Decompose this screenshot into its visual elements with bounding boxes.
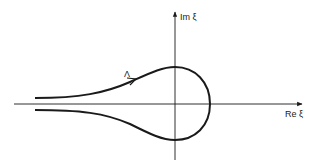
contour-label: Λ <box>124 69 130 79</box>
imaginary-axis-label: Im ξ <box>180 12 197 22</box>
contour-diagram: Λ Im ξ Re ξ <box>0 0 316 166</box>
contour-path <box>35 67 210 140</box>
real-axis-label: Re ξ <box>285 109 303 119</box>
